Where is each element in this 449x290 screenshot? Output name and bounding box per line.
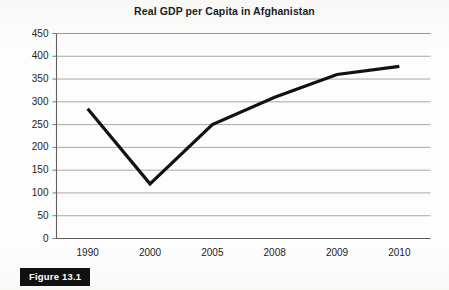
x-axis-tick-label: 2000 [127,248,173,258]
x-axis-tick-label: 2009 [314,248,360,258]
x-axis-tick-label: 2005 [189,248,235,258]
chart-plot-area [0,0,449,290]
x-axis-tick-label: 2010 [376,248,422,258]
y-axis-tick-label: 0 [17,234,49,244]
y-axis-tick-label: 450 [17,29,49,39]
y-axis-tick-label: 150 [17,165,49,175]
y-axis-tick-label: 300 [17,97,49,107]
y-axis-tick-label: 200 [17,142,49,152]
y-axis-tick-label: 400 [17,51,49,61]
y-axis-tick-label: 50 [17,211,49,221]
x-axis-tick-label: 1990 [65,248,111,258]
figure-container: Real GDP per Capita in Afghanistan 05010… [0,0,449,290]
gridlines [57,34,431,239]
y-axis-tick-label: 250 [17,120,49,130]
y-axis-tick-marks [53,34,57,239]
x-axis-tick-label: 2008 [252,248,298,258]
chart-axes [57,34,431,239]
y-axis-tick-label: 350 [17,74,49,84]
y-axis-tick-label: 100 [17,188,49,198]
figure-number-badge: Figure 13.1 [20,268,90,286]
